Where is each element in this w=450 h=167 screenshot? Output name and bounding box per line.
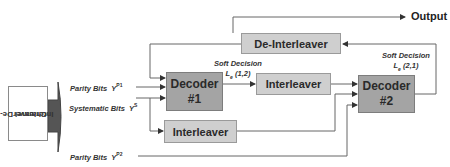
interleaver-middle-block: Interleaver	[256, 73, 331, 95]
output-label: Output	[411, 10, 447, 22]
channel-deinterleaver-block: Channel De-Interleaver	[8, 86, 48, 141]
decoder1-line1: Decoder	[170, 77, 218, 92]
interleaver-lower-block: Interleaver	[164, 120, 237, 143]
parity2-label: Parity Bits YP2	[70, 151, 122, 162]
decoder2-block: Decoder #2	[358, 75, 415, 113]
soft-decision-12-label: Soft Decision Le (1,2)	[214, 59, 262, 82]
interleaver-middle-label: Interleaver	[266, 78, 322, 90]
deinterleaver-label: De-Interleaver	[254, 38, 327, 50]
decoder2-line1: Decoder	[362, 79, 410, 94]
decoder2-line2: #2	[380, 94, 393, 109]
systematic-label: Systematic Bits YS	[69, 102, 137, 113]
deinterleaver-block: De-Interleaver	[241, 33, 341, 54]
soft-decision-21-label: Soft Decision Le (2,1)	[382, 51, 430, 74]
parity1-label: Parity Bits YP1	[70, 82, 122, 93]
channel-deinterleaver-line2: Interleaver	[10, 109, 57, 119]
decoder1-line2: #1	[188, 92, 201, 107]
interleaver-lower-label: Interleaver	[173, 126, 229, 138]
